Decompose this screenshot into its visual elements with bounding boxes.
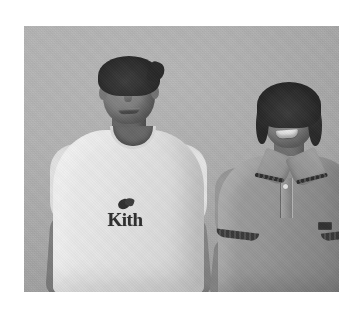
woman-polo-button	[283, 184, 288, 189]
photo-alt-text: Two people standing side by side in fron…	[0, 315, 362, 316]
woman-hair	[257, 82, 321, 128]
man-hair	[98, 56, 160, 96]
woman-chest-logo-patch	[318, 222, 332, 230]
butterfly-icon	[115, 198, 135, 211]
kith-wordmark: Kith	[108, 210, 143, 229]
man-tshirt-graphic: Kith	[97, 183, 153, 229]
photograph: Kith	[24, 26, 339, 292]
page-canvas: Kith	[0, 0, 362, 318]
